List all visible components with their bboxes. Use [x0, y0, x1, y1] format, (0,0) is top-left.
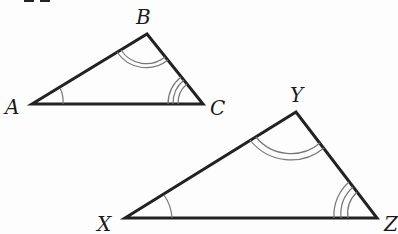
vertex-label-b: B — [135, 5, 151, 29]
vertex-label-a: A — [3, 95, 19, 119]
triangle-xyz-edges — [125, 112, 377, 218]
vertex-label-z: Z — [383, 212, 398, 234]
triangle-abc-edges — [32, 34, 203, 104]
angle-z-arc-1 — [348, 192, 357, 218]
cutoff-text-fragment — [24, 0, 34, 2]
vertex-label-y: Y — [290, 83, 305, 107]
angle-b-arc-1 — [121, 50, 165, 64]
diagram-canvas: A B C X Y Z — [0, 0, 398, 234]
angle-y-arc-1 — [256, 137, 320, 154]
vertex-label-x: X — [95, 212, 112, 234]
angle-a-arc — [60, 88, 63, 104]
angle-z-arc-3 — [334, 182, 349, 218]
vertex-label-c: C — [210, 96, 225, 120]
angle-z-arc-2 — [341, 187, 353, 218]
angle-x-arc — [164, 195, 172, 218]
angle-c-arc-1 — [178, 84, 187, 104]
triangle-xyz: X Y Z — [95, 83, 398, 234]
cutoff-text-fragment — [40, 0, 50, 2]
triangle-abc: A B C — [3, 5, 225, 120]
angle-c-arc-3 — [168, 77, 181, 104]
similar-triangles-figure: A B C X Y Z — [0, 0, 398, 234]
